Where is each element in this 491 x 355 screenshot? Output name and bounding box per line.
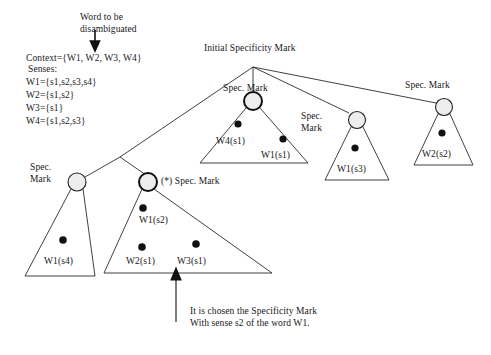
sense-dot	[279, 135, 286, 142]
initial-mark-edges	[120, 67, 436, 157]
legend-sense-w4: W4={s1,s2,s3}	[26, 116, 86, 128]
sense-dot	[351, 144, 358, 151]
sense-label-w1-s3: W1(s3)	[337, 164, 366, 176]
node-spec-mark-w2s2[interactable]	[436, 99, 453, 116]
node-spec-mark-w1s4[interactable]	[68, 173, 86, 191]
legend-context-line: Context={W1, W2, W3, W4}	[26, 52, 142, 64]
figure-canvas: Word to be disambiguated Context={W1, W2…	[0, 0, 491, 355]
legend-sense-w2: W2={s1,s2}	[26, 90, 74, 102]
sense-dot	[438, 129, 445, 136]
sense-dot	[59, 236, 67, 244]
sense-label-w4-s1: W4(s1)	[216, 136, 245, 148]
legend-sense-w3: W3={s1}	[26, 103, 63, 115]
spec-mark-label-far-right: Spec. Mark	[405, 80, 450, 92]
sense-label-w1-s1: W1(s1)	[261, 150, 290, 162]
spec-mark-label-star: (*) Spec. Mark	[161, 176, 220, 188]
node-spec-mark-star[interactable]	[139, 173, 157, 191]
chosen-mark-caption: It is chosen the Specificity Mark With s…	[190, 305, 317, 330]
sense-dot	[192, 240, 200, 248]
sense-label-w2-s1: W2(s1)	[126, 256, 155, 268]
sense-label-w1-s4: W1(s4)	[44, 256, 73, 268]
lower-branch-edges	[85, 157, 146, 177]
sense-label-w3-s1: W3(s1)	[177, 256, 206, 268]
legend-senses-header: Senses:	[28, 64, 57, 76]
sense-dot	[139, 204, 147, 212]
sense-label-w2-s2: W2(s2)	[422, 149, 451, 161]
initial-specificity-mark-label: Initial Specificity Mark	[204, 43, 296, 55]
spec-mark-label-top-center: Spec. Mark	[223, 83, 268, 95]
word-disambiguated-label: Word to be disambiguated	[80, 12, 137, 35]
spec-mark-label-mid-right: Spec. Mark	[301, 111, 322, 134]
sense-label-w1-s2: W1(s2)	[139, 215, 168, 227]
chosen-mark-arrow	[171, 268, 181, 322]
node-spec-mark-w4[interactable]	[244, 92, 262, 110]
spec-mark-label-bottom-left: Spec. Mark	[30, 162, 51, 185]
legend-sense-w1: W1={s1,s2,s3,s4}	[26, 77, 97, 89]
sense-dot	[234, 120, 241, 127]
node-spec-mark-w1s3[interactable]	[349, 112, 366, 129]
sense-dot	[138, 243, 146, 251]
